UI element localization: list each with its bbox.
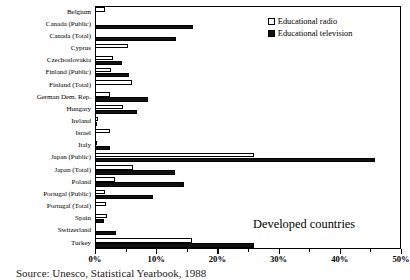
bar-educational-radio — [95, 129, 110, 133]
y-axis-tick-label: Ireland — [0, 117, 91, 125]
bar-educational-radio — [95, 238, 192, 242]
bar-educational-television — [95, 110, 137, 114]
bar-educational-television — [95, 73, 129, 77]
legend-item-label: Educational television — [278, 29, 353, 39]
x-axis-tick-label: 40% — [331, 254, 348, 265]
bar-educational-radio — [95, 56, 113, 60]
x-axis-major-tick — [279, 249, 280, 254]
bar-educational-radio — [95, 44, 128, 48]
bar-row — [95, 128, 401, 140]
bar-educational-television — [95, 182, 184, 186]
x-axis-tick-label: 20% — [209, 254, 226, 265]
y-axis-labels: BelgiumCanada (Public)Canada (Total)Cypr… — [0, 6, 91, 249]
bar-rows — [95, 6, 401, 249]
y-axis-tick-label: Switzerland — [0, 226, 91, 234]
bar-educational-radio — [95, 165, 133, 169]
y-axis-tick-label: Canada (Total) — [0, 32, 91, 40]
bar-row — [95, 42, 401, 54]
hollow-square-icon — [268, 18, 275, 25]
x-axis-labels: 0%10%20%30%40%50% — [0, 254, 409, 268]
y-axis-tick-label: Finland (Total) — [0, 81, 91, 89]
bar-educational-television — [95, 219, 104, 223]
legend-item-label: Educational radio — [278, 17, 337, 27]
x-axis-minor-tick — [126, 249, 127, 252]
bar-row — [95, 237, 401, 249]
x-axis-tick-label: 10% — [148, 254, 165, 265]
bar-row — [95, 115, 401, 127]
y-axis-tick-label: Japan (Total) — [0, 166, 91, 174]
x-axis-minor-tick — [370, 249, 371, 252]
y-axis-tick-label: Japan (Public) — [0, 153, 91, 161]
bar-educational-television — [95, 97, 148, 101]
bar-row — [95, 79, 401, 91]
y-axis-tick-label: Portugal (Total) — [0, 202, 91, 210]
y-axis-tick-label: Italy — [0, 141, 91, 149]
bar-educational-television — [95, 170, 175, 174]
bar-row — [95, 103, 401, 115]
legend-item-radio: Educational radio — [268, 16, 390, 27]
bar-educational-radio — [95, 105, 123, 109]
bar-educational-radio — [95, 80, 132, 84]
bar-row — [95, 176, 401, 188]
y-axis-tick-label: Spain — [0, 214, 91, 222]
x-axis-minor-tick — [309, 249, 310, 252]
x-axis-major-tick — [340, 249, 341, 254]
bar-educational-television — [95, 243, 254, 247]
source-note: Source: Unesco, Statistical Yearbook, 19… — [16, 267, 206, 280]
bar-educational-television — [95, 25, 193, 29]
x-axis-tick-label: 0% — [89, 254, 102, 265]
bar-educational-radio — [95, 177, 115, 181]
bar-row — [95, 188, 401, 200]
y-axis-tick-label: Hungary — [0, 105, 91, 113]
y-axis-tick-label: Poland — [0, 178, 91, 186]
bar-educational-radio — [95, 141, 97, 145]
y-axis-tick-label: Israel — [0, 129, 91, 137]
y-axis-tick-label: Belgium — [0, 8, 91, 16]
bar-educational-television — [95, 231, 116, 235]
bar-row — [95, 164, 401, 176]
filled-square-icon — [268, 30, 275, 37]
y-axis-tick-label: German Dem. Rep. — [0, 93, 91, 101]
bar-row — [95, 152, 401, 164]
bar-row — [95, 67, 401, 79]
chart-annotation: Developed countries — [253, 217, 355, 232]
y-axis-tick-label: Czechoslovakia — [0, 56, 91, 64]
y-axis-tick-label: Finland (Public) — [0, 68, 91, 76]
chart-legend: Educational radio Educational television — [268, 16, 390, 40]
bar-educational-television — [95, 37, 176, 41]
bar-row — [95, 91, 401, 103]
bar-educational-radio — [95, 202, 106, 206]
bar-educational-television — [95, 158, 375, 162]
legend-item-television: Educational television — [268, 28, 390, 39]
y-axis-tick-label: Cyprus — [0, 44, 91, 52]
bar-row — [95, 55, 401, 67]
bar-educational-television — [95, 146, 110, 150]
y-axis-tick-label: Portugal (Public) — [0, 190, 91, 198]
bar-educational-radio — [95, 117, 98, 121]
bar-educational-radio — [95, 190, 105, 194]
bar-educational-radio — [95, 68, 111, 72]
y-axis-tick-label: Turkey — [0, 239, 91, 247]
x-axis-minor-tick — [187, 249, 188, 252]
x-axis-tick-label: 50% — [392, 254, 409, 265]
bar-educational-radio — [95, 92, 110, 96]
bar-educational-radio — [95, 214, 107, 218]
x-axis-major-tick — [217, 249, 218, 254]
bar-row — [95, 200, 401, 212]
bar-educational-television — [95, 195, 153, 199]
y-axis-tick-label: Canada (Public) — [0, 20, 91, 28]
bar-educational-radio — [95, 153, 254, 157]
bar-row — [95, 140, 401, 152]
bar-educational-television — [95, 61, 122, 65]
bar-educational-radio — [95, 7, 105, 11]
x-axis-tick-label: 30% — [270, 254, 287, 265]
x-axis-major-tick — [95, 249, 96, 254]
bar-educational-television — [95, 122, 97, 126]
x-axis-major-tick — [156, 249, 157, 254]
x-axis-major-tick — [401, 249, 402, 254]
x-axis-minor-tick — [248, 249, 249, 252]
